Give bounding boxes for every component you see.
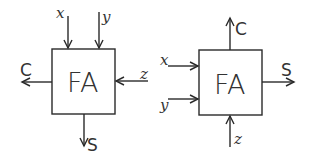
left-x-label: x: [56, 4, 65, 22]
right-s-label: S: [281, 60, 292, 80]
right-fa-label: FA: [214, 69, 246, 100]
right-c-label: C: [235, 19, 247, 39]
left-z-label: z: [139, 65, 148, 83]
left-c-label: C: [20, 60, 32, 80]
right-full-adder: FA C x y S z: [159, 18, 294, 148]
right-z-label: z: [233, 130, 242, 148]
left-s-label: S: [87, 135, 98, 155]
left-y-label: y: [101, 8, 111, 26]
full-adder-diagrams: FA x y z C S FA C x y: [0, 0, 312, 161]
right-y-label: y: [159, 96, 169, 114]
left-fa-label: FA: [67, 67, 99, 98]
left-full-adder: FA x y z C S: [20, 4, 148, 155]
right-x-label: x: [160, 51, 169, 69]
